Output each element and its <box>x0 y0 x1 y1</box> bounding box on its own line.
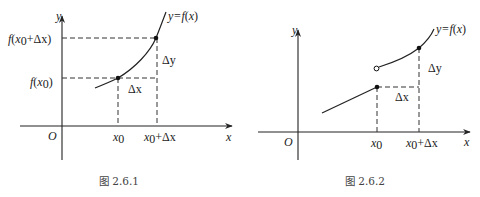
figure-2: y x O y=f(x) x0 x0+Δx Δx Δy 图 2.6.2 <box>258 22 470 187</box>
point-x0-open <box>374 66 379 71</box>
figure-1: y x O y=f(x) f(x0+Δx) f(x0) x0 x0+Δx Δx … <box>8 9 232 187</box>
point-x0-plus-dx <box>417 46 422 51</box>
x-tick-x0-plus-dx: x0+Δx <box>405 136 438 152</box>
y-tick-f-x0-plus-dx: f(x0+Δx) <box>8 32 51 48</box>
delta-y-label: Δy <box>428 61 442 75</box>
origin-label: O <box>284 135 293 149</box>
x-axis-label: x <box>225 130 232 144</box>
y-tick-f-x0: f(x0) <box>30 75 53 91</box>
origin-label: O <box>48 129 57 143</box>
point-x0 <box>116 76 121 81</box>
y-axis-label: y <box>55 9 62 23</box>
function-left-segment <box>322 87 377 113</box>
figure-1-caption: 图 2.6.1 <box>99 175 139 187</box>
function-right-curve <box>379 29 434 67</box>
function-curve <box>95 12 166 88</box>
x-tick-x0: x0 <box>370 136 382 152</box>
function-label: y=f(x) <box>435 22 466 36</box>
point-x0-filled <box>375 85 380 90</box>
delta-y-label: Δy <box>162 53 176 67</box>
point-x0-plus-dx <box>154 36 159 41</box>
delta-x-label: Δx <box>128 82 142 96</box>
x-tick-x0-plus-dx: x0+Δx <box>143 130 176 146</box>
x-axis-label: x <box>463 135 470 149</box>
delta-x-label: Δx <box>395 90 409 104</box>
figure-canvas: y x O y=f(x) f(x0+Δx) f(x0) x0 x0+Δx Δx … <box>0 0 480 197</box>
figure-2-caption: 图 2.6.2 <box>345 175 385 187</box>
function-label: y=f(x) <box>167 9 198 23</box>
y-axis-label: y <box>291 23 298 37</box>
x-tick-x0: x0 <box>112 130 124 146</box>
